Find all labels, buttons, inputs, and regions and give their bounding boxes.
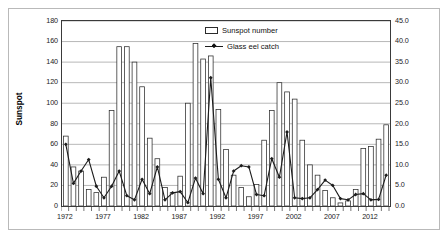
- legend-item-glass-eel-catch: Glass eel catch: [205, 40, 279, 52]
- x-axis-tick-label: 1982: [127, 212, 155, 221]
- legend-label-glass-eel-catch: Glass eel catch: [227, 42, 279, 51]
- chart-figure: 020406080100120140160180 0.05.010.015.02…: [0, 0, 448, 243]
- y-axis-right-tick-label: 25.0: [395, 98, 409, 107]
- y-axis-left-tick-label: 180: [46, 16, 58, 25]
- x-axis-tick-label: 1977: [89, 212, 117, 221]
- x-axis-tick-label: 1987: [165, 212, 193, 221]
- legend-label-sunspot-number: Sunspot number: [222, 26, 278, 35]
- y-axis-right-tick-label: 10.0: [395, 160, 409, 169]
- x-axis-tick-label: 2012: [356, 212, 384, 221]
- y-axis-left-tick-label: 140: [46, 57, 58, 66]
- y-axis-left-tick-label: 20: [50, 180, 58, 189]
- legend-item-sunspot-number: Sunspot number: [205, 24, 278, 36]
- legend-line-marker-icon: [205, 42, 223, 50]
- y-axis-left-tick-label: 40: [50, 160, 58, 169]
- x-axis-tick-label: 2007: [318, 212, 346, 221]
- y-axis-right-tick-label: 30.0: [395, 77, 409, 86]
- y-axis-right-tick-label: 15.0: [395, 139, 409, 148]
- y-axis-right-tick-label: 45.0: [395, 16, 409, 25]
- x-axis-tick-label: 2002: [280, 212, 308, 221]
- y-axis-left-tick-label: 160: [46, 36, 58, 45]
- y-axis-right-tick-label: 20.0: [395, 119, 409, 128]
- y-axis-left-title: Sunspot: [14, 74, 24, 144]
- y-axis-right-tick-label: 35.0: [395, 57, 409, 66]
- y-axis-right-tick-label: 0.0: [395, 201, 405, 210]
- x-axis-tick-label: 1997: [242, 212, 270, 221]
- y-axis-right-tick-label: 5.0: [395, 180, 405, 189]
- y-axis-left-tick-label: 120: [46, 77, 58, 86]
- y-axis-left-tick-label: 0: [54, 201, 58, 210]
- y-axis-left-tick-label: 100: [46, 98, 58, 107]
- legend: Sunspot number Glass eel catch: [205, 23, 323, 59]
- legend-bar-swatch-icon: [205, 27, 218, 34]
- x-axis-ticks: 197219771982198719921997200220072012: [0, 210, 448, 224]
- x-axis-tick-label: 1972: [51, 212, 79, 221]
- y-axis-left-tick-label: 60: [50, 139, 58, 148]
- y-axis-right-ticks: 0.05.010.015.020.025.030.035.040.045.0: [395, 0, 435, 243]
- y-axis-right-tick-label: 40.0: [395, 36, 409, 45]
- y-axis-left-tick-label: 80: [50, 119, 58, 128]
- x-axis-tick-label: 1992: [203, 212, 231, 221]
